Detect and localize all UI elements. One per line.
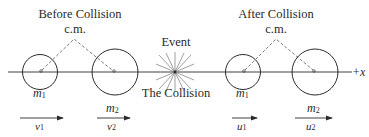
- collision-label: The Collision: [142, 86, 211, 100]
- before-cm-dashed-lines: [42, 39, 112, 70]
- after-mass2-label: m2: [307, 101, 320, 115]
- velocity-v2-label: v2: [107, 120, 116, 132]
- before-cm-label: c.m.: [64, 22, 86, 36]
- after-title: After Collision: [238, 7, 314, 21]
- collision-point: [174, 71, 177, 74]
- before-title: Before Collision: [39, 7, 123, 21]
- velocity-u1-label: u1: [237, 120, 247, 132]
- before-mass1-label: m1: [33, 86, 46, 100]
- collision-diagram: +x Before Collision c.m. m1 m2 v1 v2 Eve…: [0, 0, 369, 137]
- before-mass2-label: m2: [106, 101, 119, 115]
- after-cm-label: c.m.: [265, 22, 287, 36]
- velocity-u2-label: u2: [306, 120, 316, 132]
- axis-label: +x: [352, 65, 366, 79]
- after-cm-dashed-lines: [245, 39, 313, 70]
- event-label: Event: [161, 35, 191, 49]
- after-mass1-label: m1: [236, 86, 249, 100]
- velocity-v1-label: v1: [35, 120, 44, 132]
